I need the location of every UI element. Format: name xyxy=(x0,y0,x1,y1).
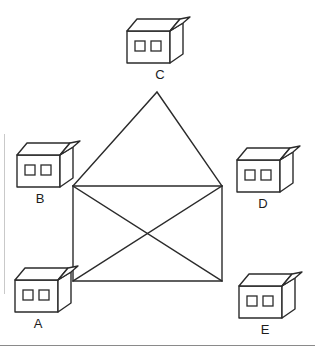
house-b-window-right xyxy=(41,165,51,175)
house-d-window-right xyxy=(261,170,271,180)
house-label-b: B xyxy=(28,192,52,206)
house-e-front-wall xyxy=(239,286,282,318)
house-e-window-left xyxy=(247,296,257,306)
house-label-c: C xyxy=(148,68,172,82)
house-c-window-left xyxy=(135,41,145,51)
house-a-window-left xyxy=(23,290,33,300)
house-e xyxy=(239,272,302,318)
house-e-window-right xyxy=(263,296,273,306)
house-d-front-wall xyxy=(237,160,280,192)
house-c-front-wall xyxy=(127,31,170,63)
house-b xyxy=(17,141,80,187)
diagram-canvas xyxy=(0,0,315,359)
house-c-window-right xyxy=(151,41,161,51)
house-a-window-right xyxy=(39,290,49,300)
house-label-e: E xyxy=(253,323,277,337)
house-label-a: A xyxy=(26,317,50,331)
house-d-window-left xyxy=(245,170,255,180)
house-a-front-wall xyxy=(15,280,58,312)
house-label-d: D xyxy=(251,197,275,211)
house-a xyxy=(15,266,78,312)
envelope-figure xyxy=(73,92,222,281)
house-b-front-wall xyxy=(17,155,60,187)
house-d xyxy=(237,146,300,192)
house-b-window-left xyxy=(25,165,35,175)
envelope-flap xyxy=(73,92,222,186)
envelope-houses-diagram: A B C D E xyxy=(0,0,315,359)
house-c xyxy=(127,17,190,63)
